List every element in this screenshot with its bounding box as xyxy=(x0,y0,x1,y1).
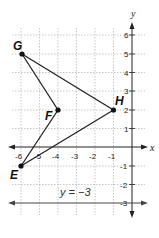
label-f: F xyxy=(45,109,53,123)
y-tick: -1 xyxy=(120,162,128,171)
y-tick: 2 xyxy=(124,106,129,115)
label-e: E xyxy=(10,168,19,182)
point-e xyxy=(18,163,23,168)
y-tick: -2 xyxy=(120,181,128,190)
x-axis xyxy=(8,145,148,150)
point-f xyxy=(55,107,60,112)
y-axis xyxy=(130,22,135,218)
x-tick: -6 xyxy=(15,152,23,161)
x-tick: -4 xyxy=(52,152,60,161)
coordinate-graph: x y -6 -5 -4 -3 -2 -1 6 5 4 3 2 1 -1 -2 … xyxy=(0,0,159,238)
line-equation-label: y = −3 xyxy=(59,186,91,198)
label-g: G xyxy=(13,39,22,53)
y-tick: 1 xyxy=(124,125,129,134)
y-tick: 6 xyxy=(124,31,129,40)
label-h: H xyxy=(115,94,124,108)
y-tick: 3 xyxy=(124,87,129,96)
x-tick: -2 xyxy=(89,152,97,161)
y-axis-label: y xyxy=(130,8,136,19)
y-tick: 5 xyxy=(124,50,129,59)
x-tick: -1 xyxy=(108,152,116,161)
y-tick: 4 xyxy=(124,69,129,78)
x-tick: -3 xyxy=(71,152,79,161)
point-h xyxy=(111,107,116,112)
x-axis-label: x xyxy=(149,142,155,153)
